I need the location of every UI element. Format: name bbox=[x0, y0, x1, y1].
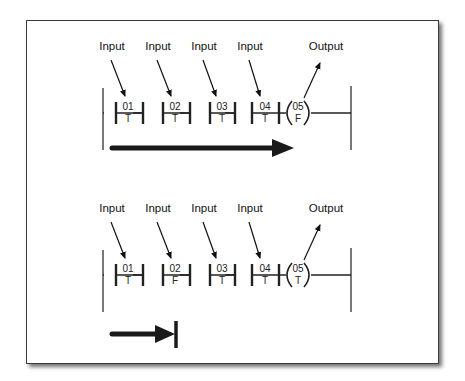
contact-address: 04 bbox=[259, 101, 271, 112]
output-arrow bbox=[304, 63, 320, 98]
input-arrow bbox=[249, 222, 260, 258]
contact-state: T bbox=[125, 275, 131, 286]
contact-state: F bbox=[172, 275, 178, 286]
input-label: Input bbox=[237, 40, 263, 52]
coil-right-arc bbox=[304, 263, 309, 287]
input-arrow bbox=[111, 222, 125, 258]
input-arrow bbox=[157, 222, 171, 258]
input-label: Input bbox=[99, 40, 125, 52]
input-label: Input bbox=[191, 40, 217, 52]
input-arrow bbox=[111, 60, 125, 96]
input-label: Input bbox=[145, 202, 171, 214]
coil-state: F bbox=[295, 113, 301, 124]
power-flow-arrowhead bbox=[155, 325, 175, 343]
coil-right-arc bbox=[304, 101, 309, 125]
coil-address: 05 bbox=[292, 101, 304, 112]
contact-address: 01 bbox=[122, 101, 134, 112]
contact-state: T bbox=[262, 113, 268, 124]
ladder-diagram: 01TInput02TInput03TInput04TInput05FOutpu… bbox=[0, 0, 465, 381]
output-arrow bbox=[304, 225, 320, 260]
input-label: Input bbox=[145, 40, 171, 52]
contact-address: 03 bbox=[216, 263, 228, 274]
power-flow-arrowhead bbox=[272, 139, 294, 157]
output-coil: 05F bbox=[279, 101, 351, 125]
output-label: Output bbox=[309, 40, 344, 52]
coil-state: T bbox=[295, 275, 301, 286]
contact-state: T bbox=[172, 113, 178, 124]
contact-address: 03 bbox=[216, 101, 228, 112]
contact-address: 02 bbox=[169, 263, 181, 274]
contact-address: 02 bbox=[169, 101, 181, 112]
coil-left-arc bbox=[287, 263, 292, 287]
contact-state: T bbox=[125, 113, 131, 124]
coil-address: 05 bbox=[292, 263, 304, 274]
contact-state: T bbox=[219, 275, 225, 286]
rung-1: 01TInput02TInput03TInput04TInput05FOutpu… bbox=[99, 40, 351, 157]
input-label: Input bbox=[99, 202, 125, 214]
contact-address: 04 bbox=[259, 263, 271, 274]
contact-state: T bbox=[219, 113, 225, 124]
rung-2: 01TInput02FInput03TInput04TInput05TOutpu… bbox=[99, 202, 351, 348]
output-coil: 05T bbox=[279, 263, 351, 287]
coil-left-arc bbox=[287, 101, 292, 125]
input-arrow bbox=[157, 60, 171, 96]
contact-state: T bbox=[262, 275, 268, 286]
input-arrow bbox=[203, 60, 216, 96]
contact-address: 01 bbox=[122, 263, 134, 274]
output-label: Output bbox=[309, 202, 344, 214]
input-label: Input bbox=[191, 202, 217, 214]
input-arrow bbox=[203, 222, 216, 258]
input-label: Input bbox=[237, 202, 263, 214]
input-arrow bbox=[249, 60, 260, 96]
